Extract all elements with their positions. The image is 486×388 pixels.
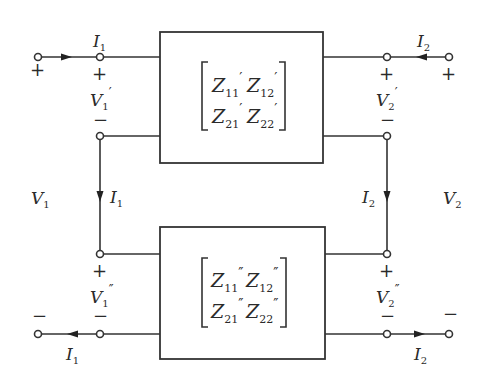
i2-bottom-label: I2 (413, 344, 427, 366)
port1-plus-sign: + (30, 59, 45, 80)
top-v2-plus-sign: + (379, 63, 394, 84)
v1-label: V1 (31, 188, 50, 210)
port2-plus-sign: + (441, 63, 456, 84)
arrow-left-icon (67, 331, 78, 338)
top-v2-minus-sign: − (380, 109, 395, 130)
i1-middle-label: I1 (109, 187, 123, 209)
bottom-v2-plus-sign: + (379, 260, 394, 281)
i2-middle-label: I2 (361, 187, 375, 209)
terminal-top-v1-plus (97, 54, 104, 61)
top-v1-minus-sign: − (93, 109, 108, 130)
bottom-v1-minus-sign: − (93, 305, 108, 326)
port2-minus-sign: − (443, 303, 458, 324)
arrow-down-icon (97, 191, 104, 202)
bottom-v1-plus-sign: + (92, 260, 107, 281)
top-v1-plus-sign: + (92, 63, 107, 84)
v2-label: V2 (443, 188, 462, 210)
top-v1-label: V1′ (90, 85, 112, 112)
bottom-network-box (160, 227, 325, 359)
port1-minus-sign: − (32, 305, 47, 326)
terminal-port2-plus (446, 54, 453, 61)
arrow-right-icon (414, 331, 425, 338)
terminal-port2-minus (446, 331, 453, 338)
terminal-top-v1-minus (97, 133, 104, 140)
arrow-left-icon (416, 54, 427, 61)
two-port-series-diagram: Z11′ Z12′ Z21′ Z22′ Z11″ Z12″ Z21″ Z22″ (0, 0, 486, 388)
terminal-bottom-v1-minus (97, 331, 104, 338)
terminal-top-v2-plus (384, 54, 391, 61)
terminal-bottom-v2-plus (384, 251, 391, 258)
top-v2-label: V2′ (376, 85, 398, 112)
i1-top-label: I1 (92, 31, 106, 53)
terminal-bottom-v2-minus (384, 331, 391, 338)
arrow-right-icon (61, 54, 72, 61)
bottom-v2-minus-sign: − (380, 305, 395, 326)
terminal-top-v2-minus (384, 133, 391, 140)
terminal-bottom-v1-plus (97, 251, 104, 258)
terminal-port1-minus (35, 331, 42, 338)
arrow-down-icon (384, 191, 391, 202)
i2-top-label: I2 (416, 31, 430, 53)
i1-bottom-label: I1 (65, 344, 79, 366)
top-network-box (160, 32, 323, 163)
